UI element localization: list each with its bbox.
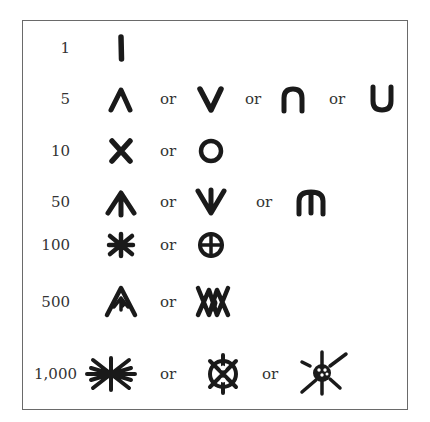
circle-cross-icon: [191, 225, 231, 265]
m-arch-icon: [291, 182, 331, 222]
row-5: 5 or or or: [23, 79, 407, 119]
row-50: 50 or or: [23, 182, 407, 222]
or-separator: or: [160, 354, 176, 394]
wheel-with-spokes-icon: [201, 352, 245, 396]
or-separator: or: [160, 182, 176, 222]
or-separator: or: [160, 225, 176, 265]
row-1: 1: [23, 28, 407, 68]
arch-icon: [273, 79, 313, 119]
v-with-stem-icon: [191, 182, 231, 222]
value-label: 5: [10, 79, 70, 119]
circle-icon: [191, 131, 231, 171]
or-separator: or: [256, 182, 272, 222]
row-1000: 1,000 or or: [23, 354, 407, 394]
or-separator: or: [160, 282, 176, 322]
u-shape-icon: [362, 79, 402, 119]
value-label: 1,000: [17, 354, 77, 394]
eight-ray-star-icon: [85, 354, 137, 394]
or-separator: or: [160, 79, 176, 119]
or-separator: or: [160, 131, 176, 171]
dotted-sun-icon: [296, 350, 350, 396]
value-label: 50: [10, 182, 70, 222]
value-label: 500: [10, 282, 70, 322]
row-100: 100 or: [23, 225, 407, 265]
value-label: 100: [10, 225, 70, 265]
asterisk-icon: [101, 225, 141, 265]
row-500: 500 or: [23, 282, 407, 322]
value-label: 10: [10, 131, 70, 171]
numeral-table-frame: 1 5 or or or 10 or 50: [22, 20, 408, 410]
double-x-with-d-icon: [193, 282, 233, 322]
x-cross-icon: [101, 131, 141, 171]
caret-with-d-icon: [101, 282, 141, 322]
arrow-up-with-stem-icon: [101, 182, 141, 222]
v-shape-icon: [191, 79, 231, 119]
vertical-stroke-icon: [101, 28, 141, 68]
row-10: 10 or: [23, 131, 407, 171]
value-label: 1: [10, 28, 70, 68]
or-separator: or: [262, 354, 278, 394]
or-separator: or: [329, 79, 345, 119]
caret-up-icon: [101, 79, 141, 119]
or-separator: or: [245, 79, 261, 119]
